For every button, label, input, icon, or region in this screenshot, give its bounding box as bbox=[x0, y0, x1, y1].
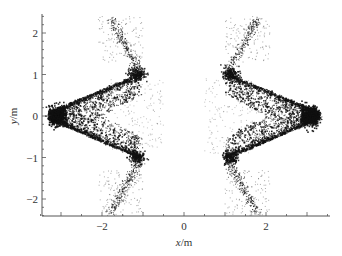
y-tick-label: −1 bbox=[26, 152, 38, 164]
x-axis-label: x/m bbox=[176, 236, 193, 248]
x-tick-label: −2 bbox=[96, 220, 108, 232]
y-tick-label: 1 bbox=[33, 69, 39, 81]
axes bbox=[41, 14, 331, 216]
y-axis-label: y/m bbox=[7, 108, 19, 125]
x-tick-label: 2 bbox=[263, 220, 269, 232]
x-tick-label: 0 bbox=[181, 220, 187, 232]
scatter-plot bbox=[0, 0, 342, 256]
data-points bbox=[45, 16, 322, 216]
y-tick-label: 2 bbox=[33, 27, 39, 39]
y-tick-label: 0 bbox=[33, 110, 39, 122]
y-tick-label: −2 bbox=[26, 193, 38, 205]
